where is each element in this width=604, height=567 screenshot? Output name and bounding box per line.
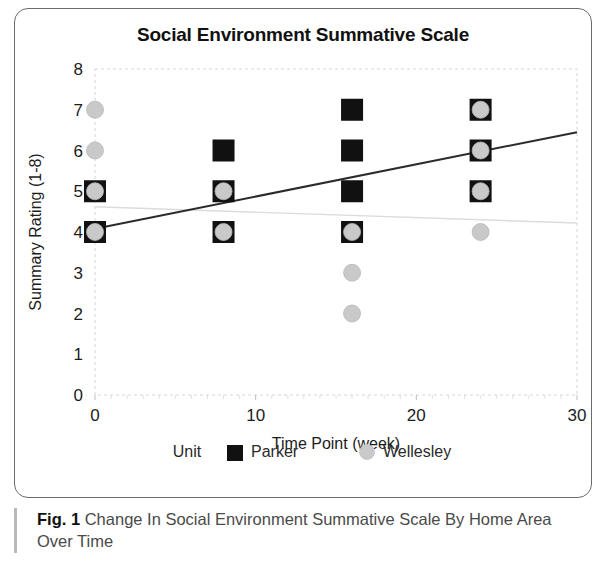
data-point-wellesley — [344, 305, 361, 322]
data-point-wellesley — [87, 183, 104, 200]
plot-area: 0123456780102030Time Point (week)Summary… — [15, 9, 592, 498]
legend-title: Unit — [173, 443, 202, 460]
x-tick-label: 0 — [90, 406, 99, 425]
y-tick-label: 6 — [74, 142, 83, 161]
data-point-wellesley — [215, 183, 232, 200]
data-point-wellesley — [472, 142, 489, 159]
figure-container: Social Environment Summative Scale 01234… — [0, 0, 604, 567]
data-point-parker — [213, 140, 235, 162]
y-tick-label: 0 — [74, 386, 83, 405]
legend-label-wellesley: Wellesley — [383, 443, 451, 460]
legend-swatch-parker — [227, 445, 243, 461]
y-tick-label: 2 — [74, 305, 83, 324]
y-axis-title: Summary Rating (1-8) — [27, 153, 44, 310]
figure-number: Fig. 1 — [37, 510, 80, 528]
data-point-wellesley — [344, 224, 361, 241]
data-point-wellesley — [472, 101, 489, 118]
data-point-wellesley — [87, 224, 104, 241]
x-tick-label: 20 — [407, 406, 426, 425]
y-tick-label: 5 — [74, 182, 83, 201]
data-point-wellesley — [472, 224, 489, 241]
scatter-plot-svg: 0123456780102030Time Point (week)Summary… — [15, 9, 592, 498]
legend-swatch-wellesley — [360, 445, 375, 460]
legend-label-parker: Parker — [251, 443, 299, 460]
y-tick-label: 8 — [74, 60, 83, 79]
y-tick-label: 4 — [74, 223, 83, 242]
data-point-parker — [341, 180, 363, 202]
figure-caption: Fig. 1 Change In Social Environment Summ… — [14, 508, 586, 553]
data-point-wellesley — [215, 224, 232, 241]
y-tick-label: 7 — [74, 101, 83, 120]
x-tick-label: 10 — [246, 406, 265, 425]
data-point-wellesley — [87, 142, 104, 159]
x-tick-label: 30 — [568, 406, 587, 425]
figure-caption-text: Change In Social Environment Summative S… — [37, 510, 552, 550]
chart-card: Social Environment Summative Scale 01234… — [14, 8, 592, 498]
data-point-parker — [341, 99, 363, 121]
data-point-wellesley — [344, 264, 361, 281]
y-tick-label: 3 — [74, 264, 83, 283]
data-point-wellesley — [87, 101, 104, 118]
data-point-parker — [341, 140, 363, 162]
plot-frame — [95, 69, 577, 395]
y-tick-label: 1 — [74, 345, 83, 364]
data-point-wellesley — [472, 183, 489, 200]
